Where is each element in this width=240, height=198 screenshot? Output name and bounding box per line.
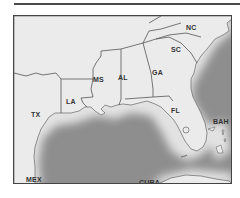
label-al: AL bbox=[118, 74, 128, 81]
label-cuba: CUBA bbox=[139, 179, 160, 184]
map-frame: NC SC GA AL MS LA TX FL BAH MEX CUBA bbox=[13, 15, 232, 184]
label-ms: MS bbox=[93, 76, 104, 83]
label-ga: GA bbox=[152, 69, 163, 76]
top-rule-divider bbox=[14, 3, 240, 5]
label-fl: FL bbox=[171, 107, 180, 114]
southeast-us-map bbox=[14, 16, 232, 184]
label-sc: SC bbox=[171, 46, 181, 53]
label-la: LA bbox=[66, 98, 76, 105]
label-mex: MEX bbox=[26, 176, 42, 183]
lake-okeechobee bbox=[183, 127, 189, 133]
label-tx: TX bbox=[31, 111, 40, 118]
label-nc: NC bbox=[186, 24, 197, 31]
label-bah: BAH bbox=[213, 118, 229, 125]
